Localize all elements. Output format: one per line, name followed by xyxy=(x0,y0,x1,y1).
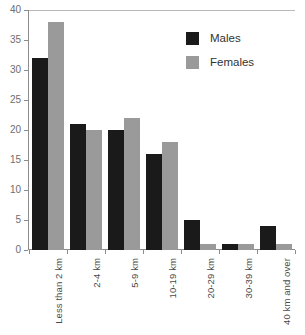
bar-males xyxy=(184,220,200,250)
y-axis-tick: 25 xyxy=(0,100,28,101)
bar-females xyxy=(238,244,254,250)
bars-layer xyxy=(29,10,295,250)
bar-females xyxy=(276,244,292,250)
bar-group xyxy=(146,10,178,250)
y-axis-tick-label: 40 xyxy=(10,3,21,16)
bar-group xyxy=(32,10,64,250)
y-axis-tick: 15 xyxy=(0,160,28,161)
y-axis-tick-mark xyxy=(24,130,28,131)
bar-males xyxy=(222,244,238,250)
y-axis-tick: 40 xyxy=(0,10,28,11)
x-axis-tick xyxy=(67,250,68,254)
legend-label-males: Males xyxy=(210,30,241,47)
y-axis-tick-mark xyxy=(24,10,28,11)
y-axis-tick-label: 20 xyxy=(10,123,21,136)
y-axis-tick-mark xyxy=(24,160,28,161)
y-axis-tick-label: 5 xyxy=(15,213,21,226)
y-axis-tick-label: 0 xyxy=(15,243,21,256)
bar-group xyxy=(108,10,140,250)
bar-males xyxy=(70,124,86,250)
x-axis-label: 10-19 km xyxy=(167,258,178,298)
y-axis-tick: 0 xyxy=(0,250,28,251)
bar-males xyxy=(32,58,48,250)
bar-males xyxy=(108,130,124,250)
x-axis-label: Less than 2 km xyxy=(53,258,64,324)
y-axis-tick-mark xyxy=(24,190,28,191)
bar-group xyxy=(260,10,292,250)
x-axis-tick xyxy=(295,250,296,254)
y-axis-tick-label: 10 xyxy=(10,183,21,196)
x-axis-label: 5-9 km xyxy=(129,258,140,288)
x-axis-tick xyxy=(257,250,258,254)
x-axis-label: 40 km and over xyxy=(281,258,292,325)
y-axis-tick: 30 xyxy=(0,70,28,71)
bar-females xyxy=(48,22,64,250)
bar-group xyxy=(70,10,102,250)
y-axis-tick-mark xyxy=(24,250,28,251)
x-axis-tick xyxy=(219,250,220,254)
x-axis-tick xyxy=(181,250,182,254)
bar-females xyxy=(162,142,178,250)
bar-males xyxy=(146,154,162,250)
y-axis-tick: 20 xyxy=(0,130,28,131)
x-axis-tick xyxy=(105,250,106,254)
bar-males xyxy=(260,226,276,250)
y-axis-tick: 35 xyxy=(0,40,28,41)
y-axis-tick: 10 xyxy=(0,190,28,191)
x-axis-tick xyxy=(29,250,30,254)
y-axis-tick-mark xyxy=(24,40,28,41)
y-axis-tick-label: 25 xyxy=(10,93,21,106)
bar-chart: 0510152025303540 Less than 2 km2-4 km5-9… xyxy=(0,0,305,335)
bar-females xyxy=(200,244,216,250)
x-axis-label: 30-39 km xyxy=(243,258,254,298)
x-axis-label: 20-29 km xyxy=(205,258,216,298)
legend-swatch-males xyxy=(186,32,199,45)
y-axis-tick-label: 15 xyxy=(10,153,21,166)
bar-females xyxy=(124,118,140,250)
y-axis-tick-label: 30 xyxy=(10,63,21,76)
y-axis-tick-label: 35 xyxy=(10,33,21,46)
y-axis-tick: 5 xyxy=(0,220,28,221)
y-axis-tick-mark xyxy=(24,100,28,101)
legend-label-females: Females xyxy=(210,54,254,71)
x-axis-label: 2-4 km xyxy=(91,258,102,288)
bar-females xyxy=(86,130,102,250)
y-axis-tick-mark xyxy=(24,220,28,221)
y-axis-tick-mark xyxy=(24,70,28,71)
x-axis-tick xyxy=(143,250,144,254)
legend-swatch-females xyxy=(186,56,199,69)
